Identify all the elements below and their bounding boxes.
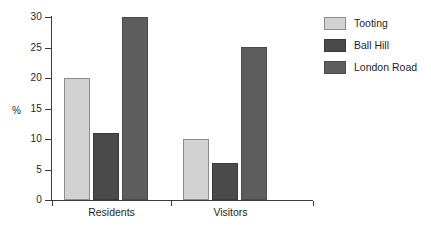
y-axis-tick-label: 10 [14,134,42,144]
y-axis-tick [45,139,51,140]
legend-item-tooting: Tooting [324,12,428,34]
y-axis-tick [45,200,51,201]
bar-tooting-residents [64,78,90,200]
legend-swatch-icon [324,61,346,74]
bar-tooting-visitors [183,139,209,200]
chart-legend: TootingBall HillLondon Road [324,12,428,78]
legend-swatch-icon [324,17,346,30]
y-axis-tick-label: 25 [14,43,42,53]
y-axis-tick-label: 20 [14,73,42,83]
y-axis-tick-label: 5 [14,165,42,175]
legend-item-ball-hill: Ball Hill [324,34,428,56]
y-axis-tick-label: 30 [14,12,42,22]
x-axis-category-label: Residents [52,206,171,218]
legend-swatch-icon [324,39,346,52]
x-axis-tick [313,201,314,206]
y-axis-tick [45,17,51,18]
legend-item-london-road: London Road [324,56,428,78]
bar-london-road-visitors [241,47,267,200]
y-axis-tick-label: 15 [14,104,42,114]
y-axis-tick-label: 0 [14,195,42,205]
legend-label: Ball Hill [354,39,389,51]
bar-chart-figure: % 051015202530 ResidentsVisitors Tooting… [0,0,431,228]
x-axis-category-label: Visitors [171,206,290,218]
bar-london-road-residents [122,17,148,200]
legend-label: London Road [354,61,417,73]
y-axis-tick [45,78,51,79]
bar-ball-hill-visitors [212,163,238,200]
x-axis-line [51,200,313,201]
legend-label: Tooting [354,17,388,29]
plot-area [52,17,290,200]
y-axis-tick [45,170,51,171]
y-axis-tick [45,48,51,49]
bar-ball-hill-residents [93,133,119,200]
y-axis-tick [45,109,51,110]
